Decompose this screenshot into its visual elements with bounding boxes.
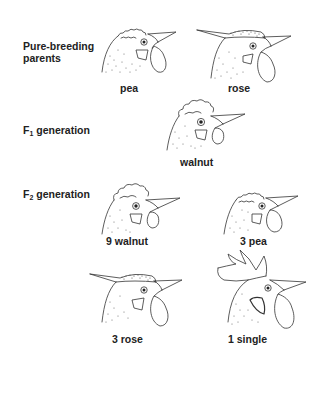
pea-comb-chicken-head-f2 bbox=[222, 182, 312, 240]
caption-rose: rose bbox=[228, 82, 250, 94]
label-suffix: generation bbox=[33, 124, 90, 136]
walnut-comb-chicken-head-f2 bbox=[100, 180, 190, 238]
caption-3-pea: 3 pea bbox=[240, 235, 267, 247]
rose-comb-chicken-head bbox=[195, 22, 295, 84]
caption-3-rose: 3 rose bbox=[112, 333, 143, 345]
walnut-comb-chicken-head bbox=[165, 98, 255, 156]
row-label-parents: Pure-breeding parents bbox=[23, 40, 94, 64]
caption-9-walnut: 9 walnut bbox=[106, 235, 148, 247]
pea-comb-chicken-head bbox=[96, 20, 186, 80]
row-label-line2: parents bbox=[23, 52, 61, 64]
caption-walnut: walnut bbox=[180, 156, 213, 168]
row-label-line1: Pure-breeding bbox=[23, 40, 94, 52]
row-label-f1: F1 generation bbox=[23, 124, 90, 140]
rose-comb-chicken-head-f2 bbox=[88, 270, 188, 332]
caption-1-single: 1 single bbox=[228, 333, 267, 345]
single-comb-chicken-head bbox=[214, 250, 314, 334]
label-suffix: generation bbox=[33, 188, 90, 200]
caption-pea: pea bbox=[120, 82, 138, 94]
row-label-f2: F2 generation bbox=[23, 188, 90, 204]
